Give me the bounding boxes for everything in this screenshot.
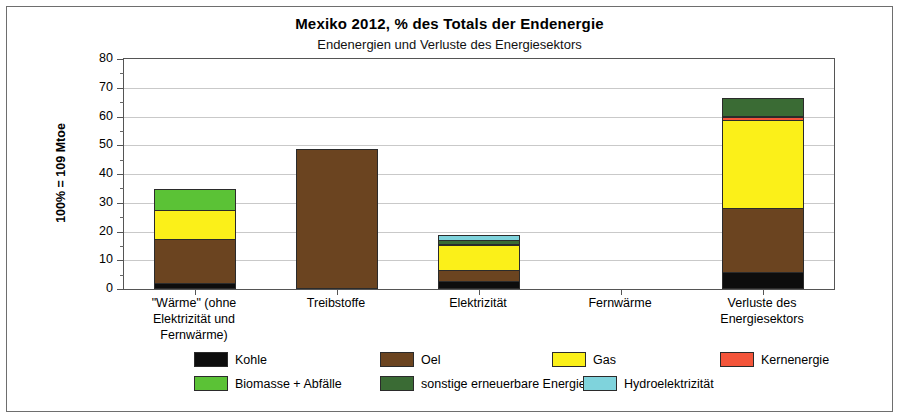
y-axis-tick — [117, 117, 124, 118]
legend-item[interactable]: sonstige erneuerbare Energie — [380, 376, 586, 391]
y-axis-tick-label: 20 — [77, 224, 113, 238]
legend-item[interactable]: Kernenergie — [720, 352, 829, 367]
y-axis-tick — [117, 289, 124, 290]
y-axis-tick-label: 10 — [77, 252, 113, 266]
bar-segment[interactable] — [438, 270, 520, 281]
legend-color-swatch — [194, 352, 228, 367]
y-axis-tick-label: 30 — [77, 195, 113, 209]
y-axis-tick-label: 50 — [77, 137, 113, 151]
x-axis-category-line: Fernwärme) — [123, 327, 265, 343]
y-axis-minor-tick — [120, 73, 124, 74]
x-axis-category-label: Verluste desEnergiesektors — [691, 295, 833, 327]
y-axis-minor-tick — [120, 188, 124, 189]
x-axis-category-line: Elektrizität — [407, 295, 549, 311]
x-axis-category-line: Fernwärme — [549, 295, 691, 311]
legend-color-swatch — [720, 352, 754, 367]
x-axis-category-label: Elektrizität — [407, 295, 549, 311]
y-axis-tick-label: 70 — [77, 80, 113, 94]
x-axis-category-line: Treibstoffe — [265, 295, 407, 311]
legend-item-label: sonstige erneuerbare Energie — [421, 377, 586, 391]
bar-stack[interactable] — [154, 59, 236, 289]
y-axis-tick — [117, 203, 124, 204]
chart-legend: KohleOelGasKernenergieBiomasse + Abfälle… — [7, 352, 892, 400]
bar-segment[interactable] — [438, 281, 520, 289]
bar-segment[interactable] — [438, 245, 520, 272]
y-axis-minor-tick — [120, 217, 124, 218]
y-axis-tick-label: 40 — [77, 166, 113, 180]
y-axis-tick-label: 60 — [77, 109, 113, 123]
bar-segment[interactable] — [722, 120, 804, 209]
bar-segment[interactable] — [722, 98, 804, 116]
y-axis-tick — [117, 260, 124, 261]
bar-stack[interactable] — [296, 59, 378, 289]
chart-title: Mexiko 2012, % des Totals der Endenergie — [7, 15, 892, 32]
y-axis-minor-tick — [120, 131, 124, 132]
bar-segment[interactable] — [722, 208, 804, 273]
legend-item-label: Gas — [593, 353, 616, 367]
legend-item-label: Oel — [421, 353, 440, 367]
y-axis-tick — [117, 59, 124, 60]
plot-area — [123, 58, 835, 290]
legend-color-swatch — [194, 376, 228, 391]
y-axis-minor-tick — [120, 246, 124, 247]
legend-item[interactable]: Kohle — [194, 352, 267, 367]
bar-segment[interactable] — [438, 235, 520, 241]
x-axis-category-line: Energiesektors — [691, 311, 833, 327]
y-axis-minor-tick — [120, 102, 124, 103]
y-axis-tick — [117, 145, 124, 146]
y-axis-title-label: 100% = 109 Mtoe — [54, 123, 68, 223]
bar-segment[interactable] — [154, 210, 236, 241]
y-axis-minor-tick — [120, 160, 124, 161]
bar-segment[interactable] — [722, 272, 804, 289]
bar-stack[interactable] — [580, 59, 662, 289]
legend-color-swatch — [552, 352, 586, 367]
y-axis-tick — [117, 88, 124, 89]
x-axis-category-line: "Wärme" (ohne — [123, 295, 265, 311]
legend-row: KohleOelGasKernenergie — [7, 352, 892, 376]
legend-item-label: Hydroelektrizität — [624, 377, 714, 391]
bar-stack[interactable] — [438, 59, 520, 289]
y-axis-minor-tick — [120, 275, 124, 276]
legend-item[interactable]: Hydroelektrizität — [583, 376, 714, 391]
bar-stack[interactable] — [722, 59, 804, 289]
chart-frame: Mexiko 2012, % des Totals der Endenergie… — [6, 6, 893, 412]
y-axis-tick — [117, 174, 124, 175]
legend-row: Biomasse + Abfällesonstige erneuerbare E… — [7, 376, 892, 400]
y-axis-tick — [117, 232, 124, 233]
bar-segment[interactable] — [154, 189, 236, 210]
x-axis-category-label: Fernwärme — [549, 295, 691, 311]
legend-item-label: Kohle — [235, 353, 267, 367]
x-axis-category-label: Treibstoffe — [265, 295, 407, 311]
bar-segment[interactable] — [154, 239, 236, 284]
legend-item-label: Kernenergie — [761, 353, 829, 367]
legend-color-swatch — [380, 352, 414, 367]
bar-segment[interactable] — [296, 149, 378, 289]
y-axis-tick-label: 80 — [77, 51, 113, 65]
legend-item[interactable]: Gas — [552, 352, 616, 367]
legend-item[interactable]: Oel — [380, 352, 440, 367]
chart-subtitle: Endenergien und Verluste des Energiesekt… — [7, 37, 892, 52]
y-axis-tick-label: 0 — [77, 281, 113, 295]
legend-item[interactable]: Biomasse + Abfälle — [194, 376, 342, 391]
x-axis-category-line: Elektrizität und — [123, 311, 265, 327]
legend-color-swatch — [380, 376, 414, 391]
y-axis-title: 100% = 109 Mtoe — [51, 58, 71, 288]
legend-item-label: Biomasse + Abfälle — [235, 377, 342, 391]
legend-color-swatch — [583, 376, 617, 391]
x-axis-category-line: Verluste des — [691, 295, 833, 311]
x-axis-category-label: "Wärme" (ohneElektrizität undFernwärme) — [123, 295, 265, 343]
